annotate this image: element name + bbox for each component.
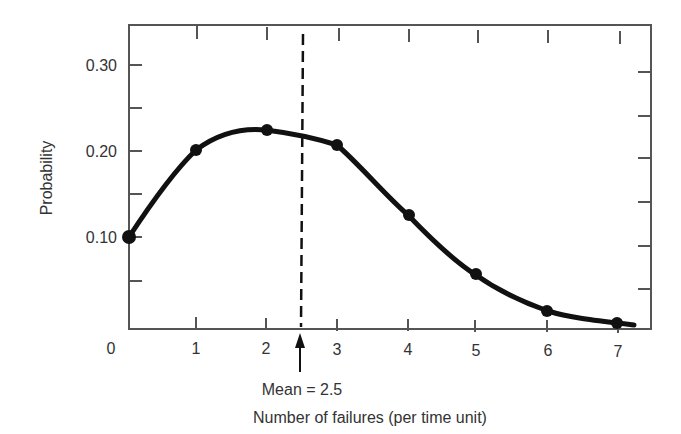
x-tick-label-5: 5 — [472, 342, 481, 359]
data-point-5 — [470, 268, 482, 280]
y-tick-label-0.30: 0.30 — [86, 57, 117, 74]
x-ticks-top — [197, 26, 620, 44]
mean-arrow-icon — [295, 333, 305, 348]
x-tick-label-3: 3 — [333, 341, 342, 358]
x-tick-label-0: 0 — [107, 340, 116, 357]
data-point-3 — [331, 139, 343, 151]
y-ticks-right — [638, 72, 651, 289]
x-tick-label-4: 4 — [404, 341, 413, 358]
plot-frame — [129, 25, 651, 329]
mean-label: Mean = 2.5 — [262, 381, 343, 398]
x-tick-label-2: 2 — [262, 340, 271, 357]
probability-chart: 0.10 0.20 0.30 0 1 2 3 4 5 6 7 Probabili… — [0, 0, 681, 434]
data-point-1 — [190, 144, 202, 156]
data-point-6 — [541, 305, 553, 317]
x-axis-title: Number of failures (per time unit) — [253, 409, 487, 426]
data-point-4 — [403, 209, 415, 221]
y-ticks-left — [129, 65, 142, 281]
data-point-7 — [611, 317, 623, 329]
x-tick-label-1: 1 — [192, 340, 201, 357]
data-point-2 — [261, 124, 273, 136]
x-ticks-bottom — [196, 317, 618, 333]
probability-curve — [129, 130, 634, 325]
y-axis-title: Probability — [38, 141, 55, 216]
data-point-0 — [122, 230, 136, 244]
x-tick-label-6: 6 — [544, 342, 553, 359]
x-tick-label-7: 7 — [614, 343, 623, 360]
y-tick-label-0.20: 0.20 — [86, 143, 117, 160]
mean-line — [301, 34, 303, 327]
data-points — [122, 124, 623, 329]
y-tick-label-0.10: 0.10 — [86, 229, 117, 246]
